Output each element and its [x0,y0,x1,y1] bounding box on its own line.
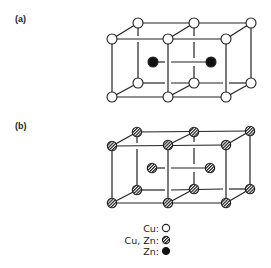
panel-a-lattice [112,23,251,97]
cu-atom [189,78,199,88]
cu-zn-atom [189,127,198,136]
cu-zn-atom [132,185,141,194]
cu-atom [163,92,173,102]
cu-zn-atom [189,184,198,193]
cu-atom [133,78,143,88]
cu-zn-atom [245,126,254,135]
legend: Cu: Cu, Zn: Zn: [125,223,170,257]
zn-atom [148,57,158,67]
crystal-structure-diagram: Cu: Cu, Zn: Zn: [0,0,271,268]
cu-atom [221,92,231,102]
cu-zn-atom [147,163,156,172]
cu-atom [246,78,256,88]
cu-zn-atom [221,198,230,207]
legend-label-zn: Zn: [143,246,159,257]
legend-label-cu: Cu: [143,223,159,234]
zn-atom [206,57,216,67]
cu-zn-atom [107,141,116,150]
cu-atom [189,18,199,28]
legend-label-cu-zn: Cu, Zn: [125,235,159,246]
cu-zn-atom [221,140,230,149]
cu-atom [163,34,173,44]
cu-atom [246,18,256,28]
hatched-circle-icon [162,236,169,243]
cu-atom [133,18,143,28]
cu-zn-atom [245,184,254,193]
cu-zn-atom [163,140,172,149]
filled-circle-icon [162,247,169,254]
cu-zn-atom [107,198,116,207]
cu-atom [221,34,231,44]
cu-atom [107,92,117,102]
cu-zn-atom [132,127,141,136]
cu-atom [107,34,117,44]
open-circle-icon [162,224,169,231]
cu-zn-atom [205,163,214,172]
cu-zn-atom [163,198,172,207]
